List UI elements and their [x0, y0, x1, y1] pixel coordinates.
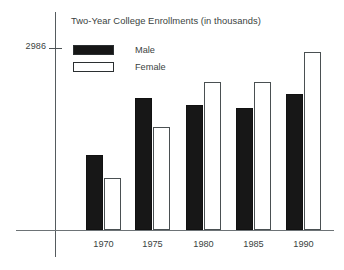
- bar-male-1985: [236, 108, 253, 230]
- bar-female-1980: [204, 82, 221, 230]
- x-axis-label-1990: 1990: [278, 239, 329, 249]
- bar-male-1970: [86, 155, 103, 230]
- x-axis-label-1970: 1970: [78, 239, 129, 249]
- plot-area: 19701975198019851990: [0, 0, 344, 270]
- bar-male-1990: [286, 94, 303, 230]
- x-axis-label-1985: 1985: [228, 239, 279, 249]
- chart-figure: 2986 Two-Year College Enrollments (in th…: [0, 0, 344, 270]
- bar-female-1970: [104, 178, 121, 230]
- bar-female-1985: [254, 82, 271, 230]
- bar-male-1980: [186, 105, 203, 230]
- bar-male-1975: [135, 98, 152, 230]
- bar-female-1975: [153, 127, 170, 230]
- bar-female-1990: [304, 52, 321, 230]
- x-axis-label-1980: 1980: [178, 239, 229, 249]
- x-axis-label-1975: 1975: [127, 239, 178, 249]
